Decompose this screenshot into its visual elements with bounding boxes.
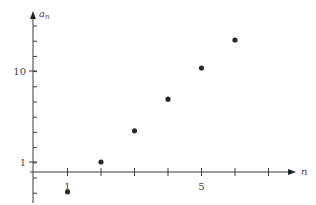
scatter-chart: an n 11015 (0, 0, 316, 205)
data-point (199, 65, 204, 70)
data-point (132, 128, 137, 133)
x-tick-label: 5 (198, 181, 204, 192)
x-axis-label: n (301, 166, 307, 177)
data-point (65, 189, 70, 194)
y-tick-label: 10 (13, 66, 26, 77)
tick-labels: 11015 (13, 66, 204, 192)
data-point (232, 37, 237, 42)
data-point (165, 97, 170, 102)
data-point (98, 159, 103, 164)
x-axis-arrow-icon (288, 169, 296, 175)
y-axis-arrow-icon (30, 11, 36, 19)
data-points (65, 37, 238, 194)
y-tick-label: 1 (20, 157, 26, 168)
y-axis-label: an (39, 8, 50, 21)
